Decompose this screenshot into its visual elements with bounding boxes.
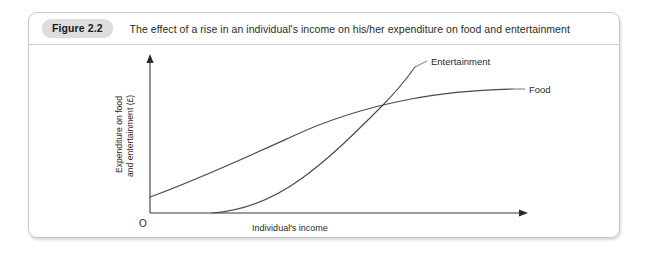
figure-panel: Figure 2.2 The effect of a rise in an in… [28, 12, 620, 238]
x-axis-title: Individual's income [252, 223, 328, 233]
chart-svg: Entertainment Food O Individual's income… [29, 45, 621, 238]
curve-food [150, 89, 513, 197]
y-axis-title-line-2: and entertainment (£) [125, 95, 135, 177]
figure-caption: The effect of a rise in an individual's … [130, 23, 570, 35]
entertainment-leader-line [415, 61, 427, 67]
chart-plot-area: Entertainment Food O Individual's income… [29, 45, 621, 238]
origin-label: O [139, 218, 147, 229]
series-label-entertainment: Entertainment [431, 56, 491, 67]
x-axis-arrow-icon [519, 209, 528, 216]
figure-header: Figure 2.2 The effect of a rise in an in… [29, 13, 619, 45]
figure-number-badge: Figure 2.2 [42, 19, 113, 38]
series-label-food: Food [529, 84, 551, 95]
curve-entertainment [212, 67, 415, 213]
y-axis-title-line-1: Expenditure on food [114, 96, 124, 173]
y-axis-arrow-icon [146, 54, 153, 63]
